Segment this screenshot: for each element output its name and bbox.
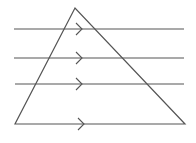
diagram-canvas bbox=[0, 0, 196, 143]
triangle bbox=[15, 8, 185, 124]
triangle-parallel-lines-diagram bbox=[0, 0, 196, 143]
parallel-arrow-marks-group bbox=[76, 23, 84, 130]
